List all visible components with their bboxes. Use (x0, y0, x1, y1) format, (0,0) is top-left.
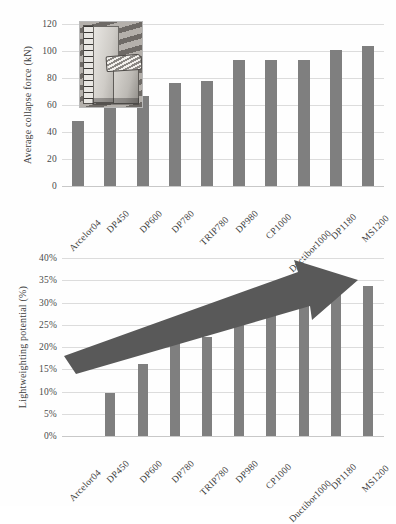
x-axis-tick-label-wrap: CP1000 (287, 439, 317, 469)
x-axis-tick-label: MS1200 (360, 213, 391, 244)
x-axis-tick-label-wrap: DP600 (157, 189, 183, 215)
y-axis-tick-label: 80 (47, 73, 62, 83)
x-axis-tick-label: MS1200 (360, 463, 391, 494)
x-axis-tick-label-wrap: DP980 (253, 439, 279, 465)
bar (104, 108, 116, 186)
x-axis-tick-label-wrap: DP600 (157, 439, 183, 465)
bar (170, 339, 180, 436)
photo-shadow (92, 98, 139, 105)
bar (169, 83, 181, 186)
y-axis-tick-label: 25% (39, 320, 62, 330)
y-axis-tick-label: 0% (44, 431, 62, 441)
bar (137, 96, 149, 186)
y-axis-tick-label: 40% (39, 253, 62, 263)
x-axis-tick-label: Arcelor04 (67, 468, 103, 504)
y-axis-tick-label: 0 (52, 181, 62, 191)
x-axis-tick-label-wrap: DP980 (253, 189, 279, 215)
y-axis-tick-label: 10% (39, 387, 62, 397)
x-axis-tick-label-wrap: CP1000 (287, 189, 317, 219)
photo-crush-folds (105, 54, 142, 72)
bar (362, 46, 374, 186)
plot-area-bottom: 0%5%10%15%20%25%30%35%40%Arcelor04DP450D… (62, 258, 384, 436)
bar (72, 121, 84, 186)
y-axis-title-top: Average collapse force (kN) (22, 24, 33, 186)
bar (105, 393, 115, 436)
y-axis-tick-label: 40 (47, 127, 62, 137)
bar (233, 60, 245, 186)
x-axis-tick-label: DP780 (169, 458, 195, 484)
y-axis-tick-label: 100 (42, 46, 62, 56)
bar (234, 318, 244, 436)
y-axis-tick-label: 35% (39, 275, 62, 285)
x-axis-tick-label: DP600 (137, 458, 163, 484)
bar (201, 81, 213, 186)
bar (330, 50, 342, 186)
bar (265, 60, 277, 186)
x-axis-tick-label: Ductibor1000 (287, 478, 333, 524)
bar (298, 60, 310, 186)
y-axis-title-bottom: Lightweighting potential (%) (17, 258, 28, 436)
x-axis-tick-label: TRIP780 (198, 465, 231, 498)
x-axis-tick-label-wrap: MS1200 (384, 439, 396, 470)
chart-lightweighting-potential: 0%5%10%15%20%25%30%35%40%Arcelor04DP450D… (62, 258, 384, 436)
x-axis-tick-label: DP600 (137, 208, 163, 234)
bar (138, 364, 148, 436)
y-axis-tick-label: 30% (39, 298, 62, 308)
x-axis-tick-label: TRIP780 (198, 215, 231, 248)
x-axis-tick-label: CP1000 (264, 462, 294, 492)
x-axis-tick-label: Arcelor04 (67, 218, 103, 254)
x-axis-tick-label-wrap: MS1200 (384, 189, 396, 220)
x-axis-tick-label-wrap: DP780 (189, 439, 215, 465)
y-axis-tick-label: 5% (44, 409, 62, 419)
gridline (62, 280, 384, 281)
y-axis-tick-label: 15% (39, 364, 62, 374)
y-axis-tick-label: 20 (47, 154, 62, 164)
gridline (62, 258, 384, 259)
x-axis-tick-label-wrap: DP780 (189, 189, 215, 215)
x-axis-tick-label: DP780 (169, 208, 195, 234)
x-axis-line (62, 436, 384, 437)
x-axis-tick-label: CP1000 (264, 212, 294, 242)
bar (363, 286, 373, 436)
y-axis-tick-label: 20% (39, 342, 62, 352)
bar (202, 337, 212, 436)
inset-photo (79, 21, 143, 108)
x-axis-line (62, 186, 384, 187)
bar (266, 311, 276, 436)
y-axis-tick-label: 120 (42, 19, 62, 29)
bar (331, 291, 341, 436)
y-axis-tick-label: 60 (47, 100, 62, 110)
bar (299, 304, 309, 436)
